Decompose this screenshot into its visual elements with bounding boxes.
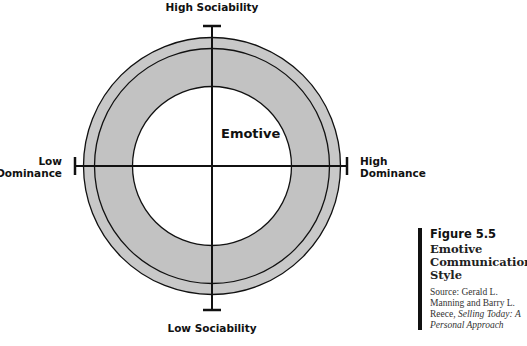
axis-label-low-dominance-line1: Low [0,155,62,167]
axis-label-high-sociability: High Sociability [166,1,259,13]
figure-title-line3: Style [430,269,524,282]
figure-title: Emotive Communication Style [430,243,524,282]
axis-label-high-dominance: High Dominance [360,155,426,179]
axis-label-low-dominance: Low Dominance [0,155,62,179]
quadrant-label-emotive: Emotive [221,126,280,141]
figure-source: Source: Gerald L. Manning and Barry L. R… [430,287,524,331]
figure-number: Figure 5.5 [430,228,524,241]
figure-caption: Figure 5.5 Emotive Communication Style S… [418,228,524,330]
axis-label-low-dominance-line2: Dominance [0,167,62,179]
axis-label-high-dominance-line1: High [360,155,426,167]
axis-label-high-dominance-line2: Dominance [360,167,426,179]
axis-label-low-sociability: Low Sociability [167,322,256,334]
